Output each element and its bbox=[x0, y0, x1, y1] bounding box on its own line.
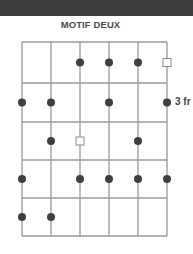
finger-dot-icon bbox=[76, 175, 84, 183]
finger-dot-icon bbox=[163, 175, 171, 183]
finger-dot-icon bbox=[134, 137, 142, 145]
finger-dot-icon bbox=[47, 137, 55, 145]
finger-dot-icon bbox=[134, 59, 142, 67]
finger-dot-icon bbox=[105, 175, 113, 183]
fretboard-diagram bbox=[0, 0, 193, 254]
finger-dot-icon bbox=[18, 175, 26, 183]
finger-dot-icon bbox=[76, 59, 84, 67]
finger-dot-icon bbox=[18, 99, 26, 107]
root-square-icon bbox=[76, 137, 84, 145]
finger-dot-icon bbox=[134, 175, 142, 183]
finger-dot-icon bbox=[47, 213, 55, 221]
root-square-icon bbox=[163, 59, 171, 67]
finger-dot-icon bbox=[163, 99, 171, 107]
start-fret-label: 3 fr bbox=[175, 96, 191, 107]
finger-dot-icon bbox=[105, 99, 113, 107]
finger-dot-icon bbox=[18, 213, 26, 221]
finger-dot-icon bbox=[47, 99, 55, 107]
finger-dot-icon bbox=[105, 59, 113, 67]
